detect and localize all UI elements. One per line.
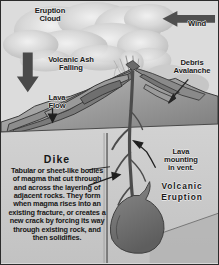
label-eruption-cloud: Eruption Cloud xyxy=(19,7,81,23)
label-lava-flow: Lava Flow xyxy=(39,94,75,110)
label-wind: Wind xyxy=(180,20,214,28)
label-volcanic-eruption: Volcanic Eruption xyxy=(151,181,213,202)
label-volcanic-ash-falling: Volcanic Ash Falling xyxy=(37,56,105,72)
dike-description: Tabular or sheet-like bodies of magma th… xyxy=(8,167,106,243)
volcanic-eruption-diagram: Eruption Cloud Wind Volcanic Ash Falling… xyxy=(0,0,219,265)
dike-callout: Dike Tabular or sheet-like bodies of mag… xyxy=(8,153,106,243)
dike-title: Dike xyxy=(8,153,106,166)
label-lava-mounting-in-vent: Lava mounting in vent. xyxy=(157,148,205,172)
label-debris-avalanche: Debris Avalanche xyxy=(167,59,217,75)
